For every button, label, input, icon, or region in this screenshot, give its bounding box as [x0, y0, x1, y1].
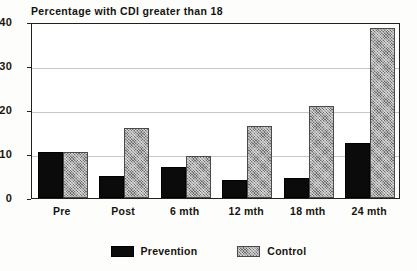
gridline-20: [32, 112, 399, 113]
y-tick-label-0: 0: [6, 192, 12, 204]
legend-label-control: Control: [267, 245, 306, 257]
legend-entry-prevention: Prevention: [111, 245, 198, 257]
bar-prevention-post: [99, 176, 124, 198]
y-tick-label-10: 10: [0, 148, 12, 160]
x-tick-label-post: Post: [111, 205, 135, 217]
chart-legend: PreventionControl: [0, 245, 417, 257]
bar-prevention-24-mth: [345, 143, 370, 198]
bar-control-pre: [63, 152, 88, 198]
bar-control-18-mth: [309, 106, 334, 198]
x-tick-label-pre: Pre: [53, 205, 71, 217]
x-tick-label-6-mth: 6 mth: [170, 205, 199, 217]
x-tick-label-18-mth: 18 mth: [290, 205, 325, 217]
bar-control-6-mth: [186, 156, 211, 198]
x-tick-label-24-mth: 24 mth: [352, 205, 387, 217]
y-tick-label-30: 30: [0, 60, 12, 72]
gridline-30: [32, 68, 399, 69]
bar-control-24-mth: [370, 28, 395, 198]
bar-control-12-mth: [247, 126, 272, 198]
gray-crosshatch-swatch: [237, 246, 260, 257]
y-tick-mark-0: [27, 199, 31, 200]
bar-control-post: [124, 128, 149, 198]
x-tick-label-12-mth: 12 mth: [229, 205, 264, 217]
y-tick-label-40: 40: [0, 16, 12, 28]
plot-area: [32, 24, 399, 198]
bar-prevention-6-mth: [161, 167, 186, 198]
bar-prevention-18-mth: [284, 178, 309, 198]
page-title: Percentage with CDI greater than 18: [31, 5, 223, 17]
y-tick-label-20: 20: [0, 104, 12, 116]
legend-entry-control: Control: [237, 245, 306, 257]
legend-label-prevention: Prevention: [141, 245, 198, 257]
bar-prevention-12-mth: [222, 180, 247, 198]
plot-frame: [31, 23, 400, 199]
solid-black-swatch: [111, 246, 134, 257]
chart-figure: Percentage with CDI greater than 18 0102…: [0, 0, 417, 271]
bar-prevention-pre: [38, 152, 63, 198]
